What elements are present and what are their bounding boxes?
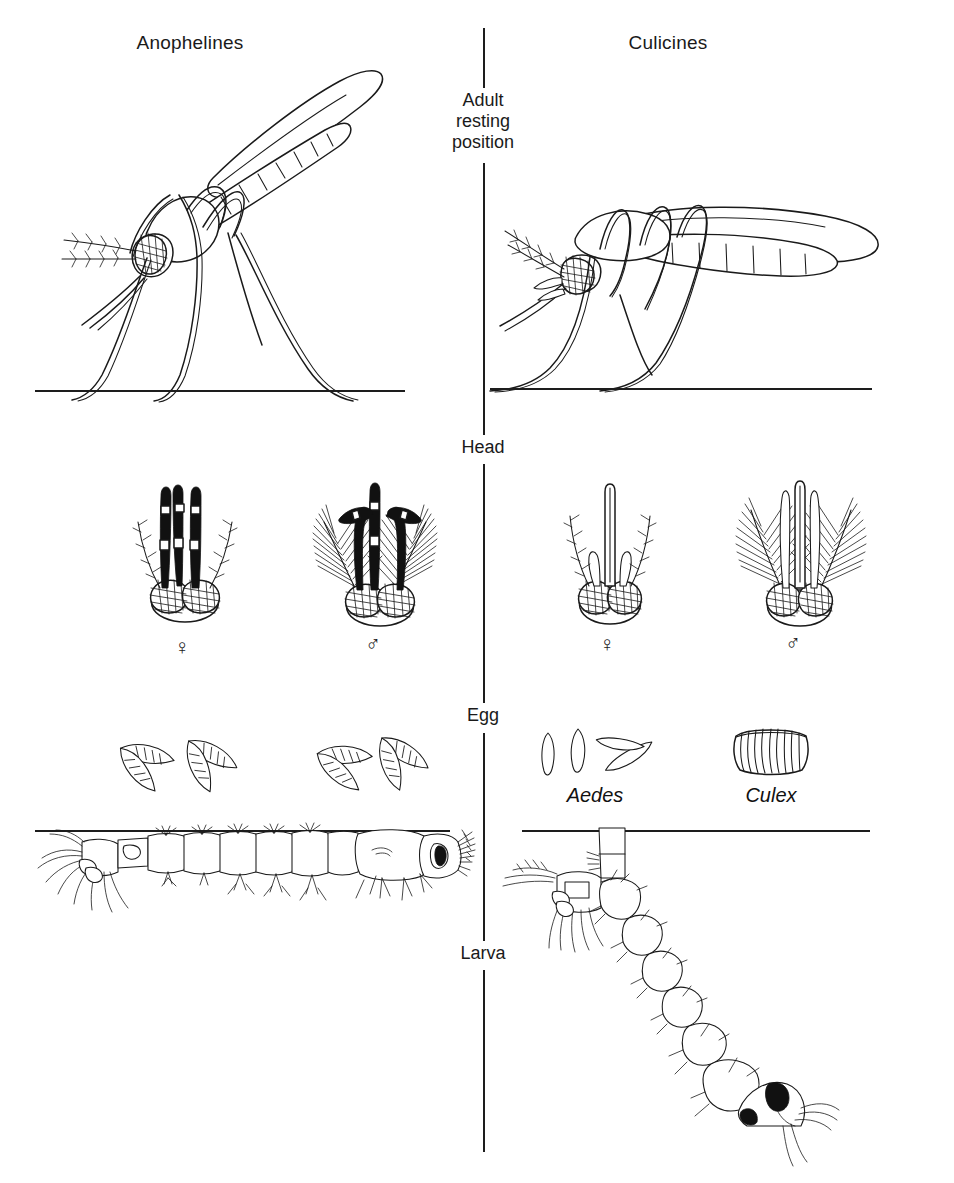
- center-divider-segment-4: [483, 733, 485, 941]
- culicine-adult-proboscis: [500, 278, 566, 331]
- culicine-male-sex-symbol: ♂: [773, 632, 813, 654]
- culicine-adult-ground-line: [490, 388, 872, 390]
- center-divider-segment-5: [483, 970, 485, 1152]
- culicine-male-palps-proboscis: [780, 481, 820, 588]
- anopheline-larva-anal-segment: [38, 830, 148, 912]
- stage-label-line: Adult: [403, 90, 563, 111]
- culicine-male-head-illustration: [725, 470, 875, 630]
- culicine-adult-antennae: [505, 230, 564, 277]
- anopheline-male-palps-proboscis: [339, 483, 422, 590]
- anopheline-eggs-illustration: [110, 725, 450, 795]
- anopheline-larva-abdomen: [148, 823, 361, 900]
- anopheline-adult-antennae: [62, 233, 136, 267]
- culicine-larva-abdomen: [589, 870, 773, 1116]
- center-divider-segment-3: [483, 464, 485, 703]
- taxon-label-culex: Culex: [706, 784, 836, 807]
- anopheline-larva-illustration: [20, 828, 470, 933]
- anopheline-male-sex-symbol: ♂: [353, 633, 393, 655]
- aedes-eggs-illustration: [540, 727, 670, 787]
- culicine-larva-illustration: [495, 826, 925, 1126]
- anopheline-female-antennae: [133, 520, 237, 588]
- culicine-adult-illustration: [480, 185, 900, 400]
- stage-label-head: Head: [403, 437, 563, 458]
- stage-label-adult-resting-position: Adult resting position: [403, 90, 563, 153]
- stage-label-egg: Egg: [403, 705, 563, 726]
- culicine-larva-head: [738, 1082, 839, 1166]
- center-divider-segment-1: [483, 28, 485, 88]
- stage-label-line: position: [403, 132, 563, 153]
- anopheline-adult-ground-line: [35, 390, 405, 392]
- anopheline-female-head-illustration: [120, 478, 250, 628]
- anopheline-female-palps-proboscis: [160, 485, 201, 588]
- anopheline-larva-head: [420, 830, 476, 878]
- column-heading-culicines: Culicines: [568, 32, 768, 54]
- culicine-female-proboscis: [605, 484, 615, 586]
- anopheline-male-head-illustration: [300, 478, 450, 628]
- mosquito-comparison-figure: Anophelines Culicines Adult resting posi…: [0, 0, 954, 1183]
- culicine-larva-siphon: [587, 828, 625, 878]
- culicine-female-head-illustration: [556, 478, 666, 628]
- anopheline-female-sex-symbol: ♀: [162, 636, 202, 658]
- culex-egg-raft-illustration: [730, 726, 815, 781]
- anopheline-adult-illustration: [20, 45, 420, 405]
- culicine-female-sex-symbol: ♀: [587, 633, 627, 655]
- taxon-label-aedes: Aedes: [530, 784, 660, 807]
- culicine-larva-anal-segment: [503, 860, 614, 952]
- stage-label-line: resting: [403, 111, 563, 132]
